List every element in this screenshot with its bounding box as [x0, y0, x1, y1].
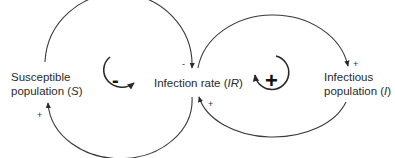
node-label-line2: population (I)	[324, 84, 391, 98]
link-i-to-ir	[199, 97, 346, 137]
label-text: )	[239, 77, 243, 89]
link-s-to-ir	[45, 0, 192, 68]
loop-polarity-left: -	[112, 70, 119, 90]
label-text: population (	[324, 85, 384, 97]
polarity-i-to-ir: +	[208, 100, 213, 109]
node-susceptible-population: Susceptible population (S)	[11, 70, 83, 98]
node-infectious-population: Infectious population (I)	[324, 70, 391, 98]
label-text: Infection rate (	[154, 77, 228, 89]
node-label-line1: Susceptible	[11, 70, 83, 84]
link-ir-to-i	[198, 15, 348, 68]
label-text: )	[387, 85, 391, 97]
node-label-line2: population (S)	[11, 84, 83, 98]
loop-polarity-right: +	[265, 71, 278, 91]
link-ir-to-s	[48, 97, 192, 158]
node-label-line1: Infectious	[324, 70, 391, 84]
variable-symbol: IR	[228, 77, 240, 89]
polarity-ir-to-i: +	[353, 60, 358, 69]
variable-symbol: S	[71, 85, 79, 97]
loop-arrow-left-icon	[104, 57, 134, 87]
node-infection-rate: Infection rate (IR)	[154, 76, 243, 90]
polarity-ir-to-s: +	[37, 111, 42, 120]
label-text: )	[79, 85, 83, 97]
polarity-s-to-ir: -	[182, 60, 185, 69]
label-text: population (	[11, 85, 71, 97]
